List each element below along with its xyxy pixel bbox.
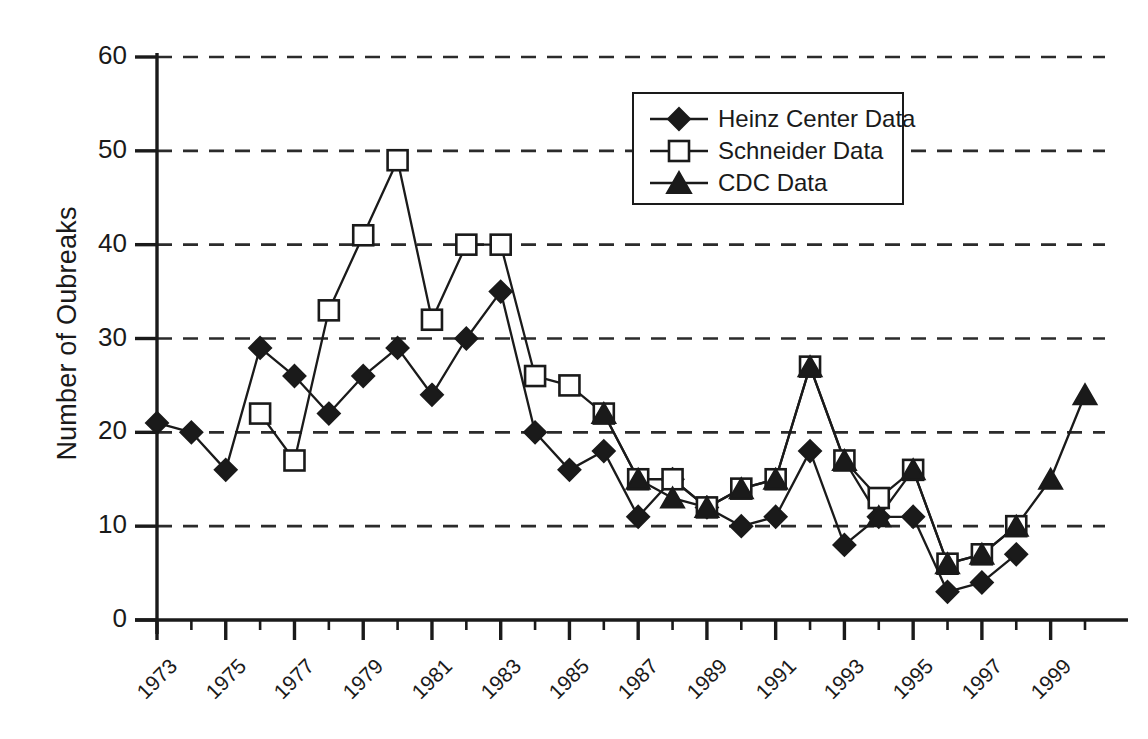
datapoint-s1-1985 <box>559 375 579 395</box>
datapoint-s0-1983 <box>490 281 512 303</box>
chart-container: Number of Oubreaks 0102030405060 1973197… <box>0 0 1148 739</box>
y-tick-label-40: 40 <box>67 228 127 259</box>
datapoint-s0-1995 <box>902 506 924 528</box>
datapoint-s0-1986 <box>593 440 615 462</box>
filled-triangle-icon <box>648 170 710 196</box>
legend-item-1[interactable]: Schneider Data <box>634 135 902 167</box>
datapoint-s1-1980 <box>388 150 408 170</box>
y-tick-label-10: 10 <box>67 509 127 540</box>
datapoint-s1-1983 <box>491 235 511 255</box>
chart-legend: Heinz Center DataSchneider DataCDC Data <box>632 92 904 205</box>
y-tick-label-50: 50 <box>67 134 127 165</box>
series-line-1 <box>260 160 1016 563</box>
legend-label: CDC Data <box>718 169 827 197</box>
datapoint-s1-1981 <box>422 310 442 330</box>
plot-area <box>0 0 1148 739</box>
datapoint-s1-1982 <box>456 235 476 255</box>
filled-diamond-icon <box>648 106 710 132</box>
datapoint-s1-1978 <box>319 300 339 320</box>
legend-item-0[interactable]: Heinz Center Data <box>634 103 902 135</box>
datapoint-s0-1992 <box>799 440 821 462</box>
series-line-0 <box>157 292 1016 592</box>
open-square-icon <box>648 138 710 164</box>
datapoint-s0-1990 <box>730 515 752 537</box>
datapoint-s0-1996 <box>937 581 959 603</box>
legend-item-2[interactable]: CDC Data <box>634 167 902 199</box>
datapoint-s1-1984 <box>525 366 545 386</box>
datapoint-s1-1979 <box>353 225 373 245</box>
datapoint-s0-1981 <box>421 384 443 406</box>
datapoint-s0-1982 <box>455 328 477 350</box>
y-tick-label-30: 30 <box>67 322 127 353</box>
y-tick-label-0: 0 <box>67 603 127 634</box>
legend-label: Schneider Data <box>718 137 883 165</box>
legend-label: Heinz Center Data <box>718 105 915 133</box>
y-tick-label-60: 60 <box>67 40 127 71</box>
datapoint-s1-1977 <box>284 450 304 470</box>
datapoint-s2-2000 <box>1074 384 1097 404</box>
datapoint-s0-1991 <box>765 506 787 528</box>
datapoint-s1-1976 <box>250 404 270 424</box>
y-tick-label-20: 20 <box>67 415 127 446</box>
datapoint-s2-1999 <box>1039 469 1062 489</box>
